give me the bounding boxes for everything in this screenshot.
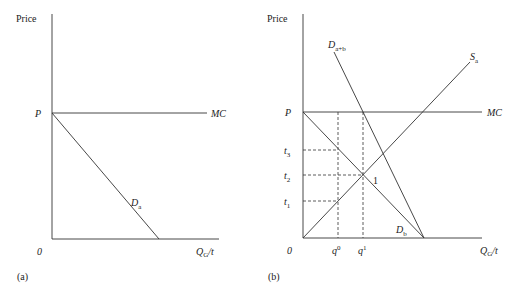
panel-b-mc-label: MC [486,107,502,118]
panel-b-q1-label: q1 [358,244,367,256]
panel-b-dab-label: Da+b [327,39,346,53]
panel-b-db-label: Db [395,224,407,238]
panel-b-sa-label: Sa [470,51,479,65]
panel-b-y-axis-label: Price [267,13,288,24]
panel-b-t3-label: t3 [284,145,291,159]
panel-b-price-label: P [284,107,291,118]
panel-a-x-axis-label: QG/t [196,246,214,259]
diagram-canvas: Price P MC Da 0 QG/t (a) Price P MC t3 t… [0,0,512,295]
panel-b-x-axis-label: QG/t [480,245,498,258]
panel-b-intersection-label: 1 [373,175,378,186]
panel-a-price-label: P [34,108,41,119]
panel-b-origin-label: 0 [287,245,292,256]
panel-a-origin-label: 0 [37,246,42,257]
panel-b-t1-label: t1 [284,196,291,210]
panel-a-mc-label: MC [210,108,226,119]
panel-a-caption: (a) [17,271,28,283]
panel-a-demand-line [52,113,159,239]
panel-a-demand-label: Da [130,197,142,211]
panel-b-q0-label: q0 [332,244,341,256]
panel-b-t2-label: t2 [284,170,291,184]
panel-b-caption: (b) [268,271,280,283]
panel-b-dab-line [334,52,424,238]
panel-a-y-axis-label: Price [16,13,37,24]
